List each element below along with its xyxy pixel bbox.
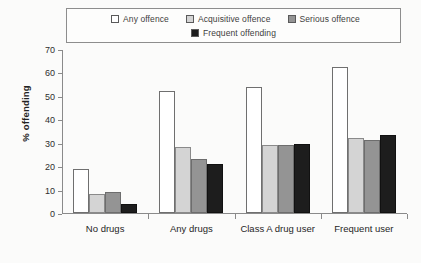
bar bbox=[89, 194, 105, 213]
bar bbox=[262, 145, 278, 213]
y-tick-label: 70 bbox=[45, 45, 55, 55]
legend-row-primary: Any offence Acquisitive offence Serious … bbox=[67, 12, 400, 26]
legend-label-serious-offence: Serious offence bbox=[300, 15, 360, 24]
legend-swatch-any-offence bbox=[111, 15, 119, 23]
y-tick-mark bbox=[58, 120, 62, 121]
x-tick-mark bbox=[235, 214, 236, 219]
y-tick-label: 10 bbox=[45, 186, 55, 196]
y-tick-mark bbox=[58, 191, 62, 192]
y-axis-title: % offending bbox=[20, 69, 31, 159]
bar bbox=[246, 87, 262, 214]
x-tick-label: No drugs bbox=[86, 223, 125, 234]
bar bbox=[348, 138, 364, 213]
plot-area: 010203040506070 No drugsAny drugsClass A… bbox=[62, 50, 407, 214]
bar bbox=[364, 140, 380, 213]
bar bbox=[159, 91, 175, 213]
y-tick-mark bbox=[58, 50, 62, 51]
legend-item-frequent-offending: Frequent offending bbox=[191, 29, 276, 38]
legend-label-any-offence: Any offence bbox=[123, 15, 169, 24]
y-tick-mark bbox=[58, 214, 62, 215]
x-tick-label: Class A drug user bbox=[240, 223, 314, 234]
bar bbox=[121, 204, 137, 213]
y-tick-label: 30 bbox=[45, 139, 55, 149]
y-tick-label: 40 bbox=[45, 115, 55, 125]
bar bbox=[207, 164, 223, 213]
legend-swatch-frequent-offending bbox=[191, 29, 199, 37]
x-tick-label: Frequent user bbox=[334, 223, 393, 234]
x-tick-mark bbox=[407, 214, 408, 219]
y-tick-label: 50 bbox=[45, 92, 55, 102]
legend-swatch-serious-offence bbox=[288, 15, 296, 23]
legend-swatch-acquisitive-offence bbox=[186, 15, 194, 23]
y-axis-line bbox=[62, 50, 63, 214]
x-tick-mark bbox=[148, 214, 149, 219]
y-tick-mark bbox=[58, 167, 62, 168]
y-tick-label: 20 bbox=[45, 162, 55, 172]
legend-label-frequent-offending: Frequent offending bbox=[203, 29, 276, 38]
bar bbox=[278, 145, 294, 213]
bar bbox=[191, 159, 207, 213]
y-tick-mark bbox=[58, 97, 62, 98]
legend-item-acquisitive-offence: Acquisitive offence bbox=[186, 15, 271, 24]
y-tick-mark bbox=[58, 144, 62, 145]
legend-label-acquisitive-offence: Acquisitive offence bbox=[198, 15, 271, 24]
bar bbox=[294, 144, 310, 213]
x-tick-label: Any drugs bbox=[170, 223, 213, 234]
bar-chart-figure: Any offence Acquisitive offence Serious … bbox=[0, 0, 421, 263]
bar bbox=[105, 192, 121, 213]
legend-row-secondary: Frequent offending bbox=[67, 26, 400, 40]
x-tick-mark bbox=[321, 214, 322, 219]
y-tick-label: 0 bbox=[50, 209, 55, 219]
bar bbox=[73, 169, 89, 214]
bar bbox=[380, 135, 396, 213]
y-tick-mark bbox=[58, 73, 62, 74]
legend-item-any-offence: Any offence bbox=[111, 15, 169, 24]
legend-item-serious-offence: Serious offence bbox=[288, 15, 360, 24]
chart-legend: Any offence Acquisitive offence Serious … bbox=[66, 8, 401, 43]
y-tick-label: 60 bbox=[45, 68, 55, 78]
bar bbox=[175, 147, 191, 213]
bar bbox=[332, 67, 348, 213]
